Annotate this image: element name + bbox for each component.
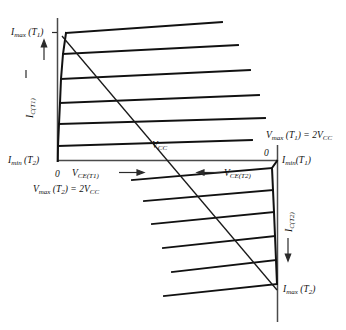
upper-curve-5	[59, 118, 265, 124]
ic-t1-up-arrow-icon	[41, 40, 46, 60]
label-vmax-t2: Vmax (T2) = 2VCC	[33, 184, 99, 196]
diagram-canvas: Imax (T1) IC(T1) Imin (T2) 0 VCE(T1) Vma…	[0, 0, 346, 330]
upper-curve-4	[60, 95, 259, 103]
upper-curve-2	[63, 45, 238, 54]
transistor-characteristic-diagram: Imax (T1) IC(T1) Imin (T2) 0 VCE(T1) Vma…	[0, 0, 346, 330]
lower-curve-2	[144, 190, 273, 201]
label-imin-t2: Imin (T2)	[7, 155, 39, 167]
ic-t2-down-arrow-icon	[285, 238, 290, 261]
upper-knee-line	[58, 33, 66, 161]
lower-knee-line	[272, 161, 277, 284]
lower-curve-6	[164, 284, 277, 296]
label-vmax-t1: Vmax (T1) = 2VCC	[266, 130, 332, 142]
label-imax-t1: Imax (T1)	[10, 27, 43, 39]
label-origin-right: 0	[264, 148, 269, 158]
lower-curve-4	[163, 236, 275, 248]
label-imax-t2: Imax (T2)	[282, 284, 315, 296]
vce-t1-right-arrow-icon	[119, 170, 144, 175]
label-ic-t1: IC(T1)	[25, 97, 37, 119]
label-origin-left: 0	[55, 169, 60, 179]
lower-curve-family	[132, 168, 277, 296]
upper-curve-1	[66, 22, 222, 33]
label-vce-t1: VCE(T1)	[72, 168, 100, 180]
upper-curve-3	[61, 70, 250, 79]
label-imin-t1: Imin(T1)	[281, 155, 311, 167]
upper-curve-family	[58, 22, 265, 146]
label-ic-t2: IC(T2)	[284, 211, 296, 233]
